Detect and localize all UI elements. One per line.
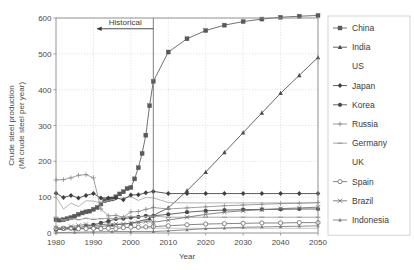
data-point: [316, 13, 320, 17]
legend-label-germany[interactable]: Germany: [352, 138, 388, 148]
data-point: [278, 221, 282, 225]
y-tick-label: 400: [38, 86, 52, 95]
data-point: [140, 151, 144, 155]
data-point: [144, 133, 148, 137]
data-point: [204, 29, 208, 33]
chart-canvas: Historical010020030040050060019801990200…: [0, 0, 414, 270]
y-axis-title-line1: Crude steel production: [7, 85, 16, 166]
data-point: [185, 210, 189, 214]
data-point: [144, 214, 148, 218]
legend-label-brazil[interactable]: Brazil: [352, 196, 373, 206]
x-axis-title: Year: [179, 252, 196, 261]
data-point: [84, 227, 88, 231]
data-point: [260, 191, 265, 196]
data-point: [121, 226, 125, 230]
data-point: [76, 195, 81, 200]
x-tick-label: 1980: [47, 238, 65, 247]
data-point: [222, 23, 226, 27]
data-point: [241, 20, 245, 24]
legend-label-korea[interactable]: Korea: [352, 100, 375, 110]
data-point: [144, 225, 148, 229]
legend-label-russia[interactable]: Russia: [352, 119, 378, 129]
data-point: [114, 227, 118, 231]
data-point: [73, 214, 77, 218]
data-point: [241, 191, 246, 196]
y-tick-label: 300: [38, 122, 52, 131]
data-point: [297, 191, 302, 196]
data-point: [88, 209, 92, 213]
legend-label-uk[interactable]: UK: [352, 157, 364, 167]
data-point: [84, 210, 88, 214]
y-tick-label: 500: [38, 50, 52, 59]
data-point: [185, 223, 189, 227]
data-point: [278, 207, 282, 211]
data-point: [204, 222, 208, 226]
data-point: [166, 224, 170, 228]
x-tick-label: 2020: [197, 238, 215, 247]
data-point: [338, 103, 342, 107]
data-point: [204, 209, 208, 213]
legend-label-spain[interactable]: Spain: [352, 177, 374, 187]
data-point: [106, 226, 110, 230]
data-point: [136, 166, 140, 170]
y-tick-label: 100: [38, 193, 52, 202]
data-point: [166, 191, 171, 196]
y-axis-title-line2: (Mt crude steel per year): [17, 82, 26, 169]
crude-steel-production-chart: Historical010020030040050060019801990200…: [0, 0, 414, 270]
x-tick-label: 2050: [309, 238, 327, 247]
legend-label-india[interactable]: India: [352, 42, 371, 52]
data-point: [222, 208, 226, 212]
data-point: [118, 192, 122, 196]
legend-label-china[interactable]: China: [352, 23, 374, 33]
legend-label-indonesia[interactable]: Indonesia: [352, 215, 389, 225]
data-point: [148, 104, 152, 108]
data-point: [144, 190, 149, 195]
data-point: [185, 37, 189, 41]
data-point: [278, 191, 283, 196]
data-point: [166, 212, 170, 216]
data-point: [76, 212, 80, 216]
x-tick-label: 1990: [85, 238, 103, 247]
x-tick-label: 2040: [272, 238, 290, 247]
data-point: [203, 191, 208, 196]
historical-arrow-head-icon: [97, 27, 102, 31]
data-point: [125, 187, 129, 191]
x-tick-label: 2000: [122, 238, 140, 247]
data-point: [99, 227, 103, 231]
data-point: [279, 15, 283, 19]
data-point: [136, 192, 141, 197]
data-point: [338, 26, 342, 30]
data-point: [91, 191, 96, 196]
historical-annotation-label: Historical: [109, 18, 142, 27]
y-tick-label: 0: [47, 229, 52, 238]
data-point: [260, 221, 264, 225]
data-point: [61, 195, 66, 200]
data-point: [133, 177, 137, 181]
data-point: [121, 190, 125, 194]
legend-label-us[interactable]: US: [352, 61, 364, 71]
data-point: [222, 222, 226, 226]
data-point: [80, 211, 84, 215]
x-tick-label: 2030: [234, 238, 252, 247]
data-point: [222, 191, 227, 196]
y-tick-label: 600: [38, 14, 52, 23]
data-point: [129, 225, 133, 229]
data-point: [69, 193, 74, 198]
data-point: [338, 180, 342, 184]
data-point: [297, 221, 301, 225]
data-point: [241, 221, 245, 225]
data-point: [91, 207, 95, 211]
data-point: [166, 50, 170, 54]
legend-label-japan[interactable]: Japan: [352, 81, 375, 91]
data-point: [136, 225, 140, 229]
y-tick-label: 200: [38, 157, 52, 166]
data-point: [129, 185, 133, 189]
x-tick-label: 2010: [159, 238, 177, 247]
